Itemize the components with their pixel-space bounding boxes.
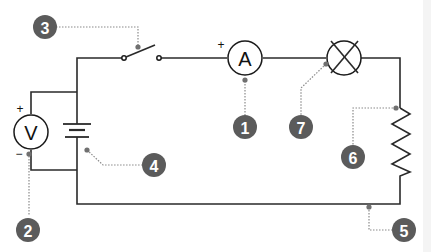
ammeter-plus-sign: + xyxy=(217,38,224,52)
svg-text:3: 3 xyxy=(41,20,50,37)
ammeter-symbol: A + xyxy=(217,38,262,75)
callout-badge-7: 7 xyxy=(289,115,313,139)
svg-text:5: 5 xyxy=(400,223,409,240)
switch-symbol xyxy=(122,45,161,60)
callout-badge-1: 1 xyxy=(233,115,257,139)
svg-text:7: 7 xyxy=(297,120,306,137)
resistor-symbol xyxy=(392,108,410,188)
battery-symbol xyxy=(63,124,91,137)
callout-badge-4: 4 xyxy=(142,153,166,177)
svg-text:6: 6 xyxy=(349,150,358,167)
svg-text:4: 4 xyxy=(150,158,159,175)
ammeter-label: A xyxy=(238,48,252,70)
voltmeter-minus-sign: − xyxy=(15,147,22,161)
svg-text:1: 1 xyxy=(241,120,250,137)
svg-text:2: 2 xyxy=(24,223,33,240)
circuit-diagram: A + V + − xyxy=(0,0,431,252)
voltmeter-label: V xyxy=(24,122,38,144)
callout-badge-5: 5 xyxy=(392,218,416,242)
callout-badge-3: 3 xyxy=(33,15,57,39)
voltmeter-plus-sign: + xyxy=(16,102,23,116)
callout-badge-6: 6 xyxy=(341,145,365,169)
lamp-symbol xyxy=(327,41,361,75)
circuit-wires xyxy=(31,58,400,204)
callout-badge-2: 2 xyxy=(16,218,40,242)
